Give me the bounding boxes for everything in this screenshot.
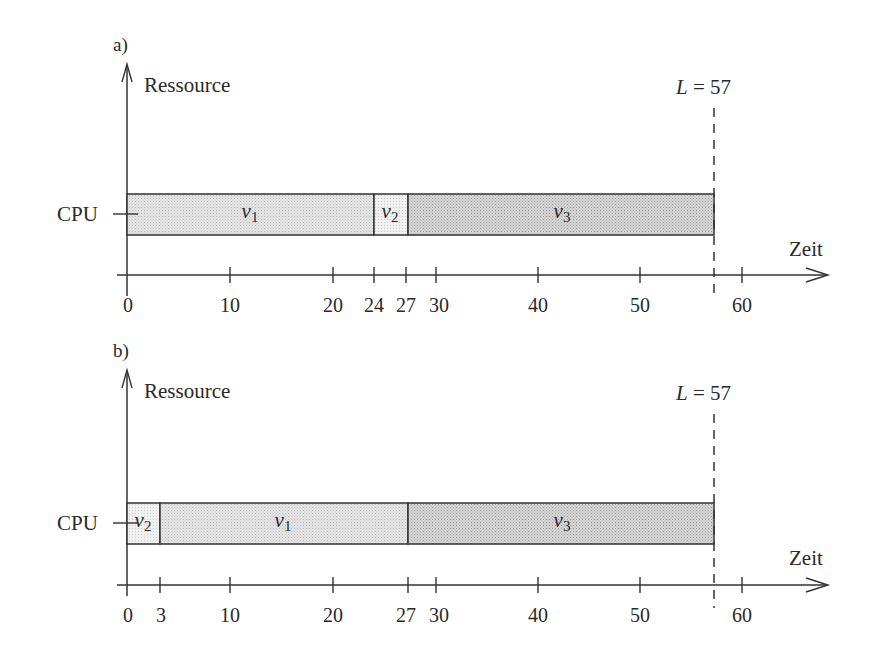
tick-label: 24 [364,294,384,317]
deadline-symbol: L [676,75,688,99]
block-label-v2: v2 [382,199,399,226]
tick-label: 60 [732,604,752,627]
panel-a-label: a) [113,34,128,56]
tick-label: 60 [732,294,752,317]
panel-b-label: b) [113,340,129,362]
tick-label: 50 [630,604,650,627]
block-label-v3: v3 [554,199,571,226]
resource-label-cpu: CPU [57,202,98,227]
block-label-v1: v1 [242,199,259,226]
tick-label: 20 [323,604,343,627]
tick-label: 40 [528,604,548,627]
tick-label: 30 [429,294,449,317]
schedule-diagram-graphics [0,0,873,665]
deadline-symbol: L [676,381,688,405]
y-axis-label: Ressource [144,379,230,404]
block-label-v1: v1 [275,508,292,535]
deadline-label: L = 57 [676,75,731,100]
x-axis-label: Zeit [789,237,823,262]
tick-label: 27 [396,294,416,317]
tick-label: 0 [123,294,133,317]
tick-label: 40 [528,294,548,317]
block-label-v2: v2 [135,508,152,535]
y-axis-label: Ressource [144,73,230,98]
x-axis-label: Zeit [789,546,823,571]
resource-label-cpu: CPU [57,511,98,536]
deadline-value: = 57 [693,75,731,99]
tick-label: 27 [396,604,416,627]
tick-label: 20 [323,294,343,317]
tick-label: 3 [156,604,166,627]
tick-label: 50 [630,294,650,317]
tick-label: 0 [123,604,133,627]
deadline-value: = 57 [693,381,731,405]
tick-label: 10 [220,294,240,317]
tick-label: 10 [220,604,240,627]
deadline-label: L = 57 [676,381,731,406]
block-label-v3: v3 [554,508,571,535]
tick-label: 30 [429,604,449,627]
